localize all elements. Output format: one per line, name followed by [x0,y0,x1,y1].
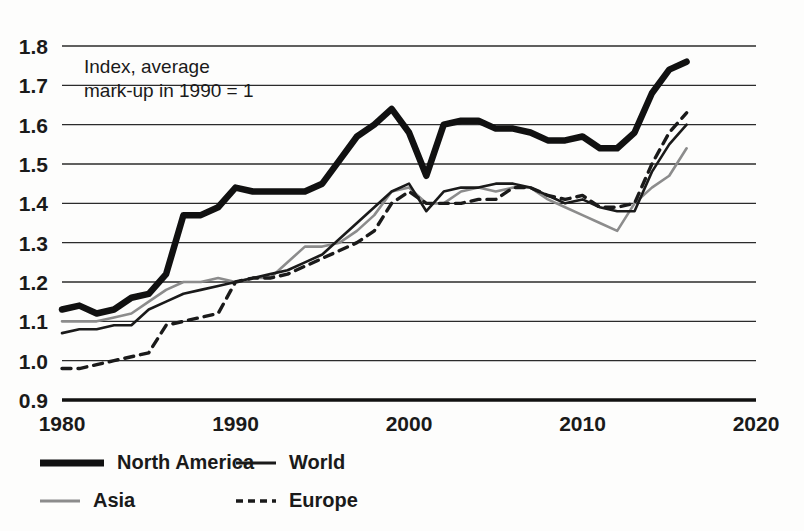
y-axis-tick-label: 1.3 [19,232,48,255]
series-lines-group [62,62,687,369]
y-axis-tick-label: 1.2 [19,271,48,294]
x-axis-tick-label: 2020 [733,412,780,435]
y-axis-tick-label: 1.1 [19,310,49,333]
y-axis-tick-labels: 0.91.01.11.21.31.41.51.61.71.8 [19,35,49,412]
y-axis-tick-label: 1.6 [19,114,48,137]
chart-annotation: Index, average mark-up in 1990 = 1 [84,56,254,101]
y-axis-tick-label: 1.5 [19,153,49,176]
y-axis-tick-label: 1.0 [19,350,48,373]
legend-label-asia: Asia [93,489,136,511]
legend-label-world: World [289,451,345,473]
x-axis-tick-labels: 19801990200020102020 [39,412,780,435]
x-axis-tick-label: 2000 [386,412,433,435]
legend-label-europe: Europe [289,489,358,511]
chart-container: 0.91.01.11.21.31.41.51.61.71.8 198019902… [0,0,804,531]
y-axis-tick-label: 1.8 [19,35,49,58]
x-axis-tick-label: 1990 [212,412,259,435]
y-axis-tick-label: 1.4 [19,192,49,215]
series-line-europe [62,113,687,369]
annotation-line-1: Index, average [84,56,210,77]
series-line-asia [62,148,687,321]
x-axis-tick-label: 2010 [559,412,606,435]
y-axis-tick-label: 1.7 [19,74,48,97]
annotation-line-2: mark-up in 1990 = 1 [84,80,254,101]
legend-item-europe[interactable]: Europe [236,489,358,511]
markup-index-line-chart: 0.91.01.11.21.31.41.51.61.71.8 198019902… [0,0,804,531]
chart-legend: North AmericaWorldAsiaEurope [40,451,358,511]
legend-label-north-america: North America [117,451,255,473]
y-axis-tick-label: 0.9 [19,389,48,412]
legend-item-asia[interactable]: Asia [40,489,136,511]
legend-item-north-america[interactable]: North America [40,451,255,473]
x-axis-tick-label: 1980 [39,412,86,435]
